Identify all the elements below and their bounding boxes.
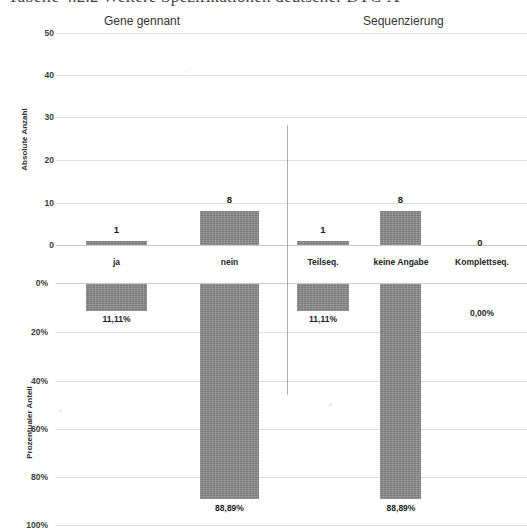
bar-top-teilseq bbox=[297, 241, 349, 245]
percent-label-nein: 88,89% bbox=[200, 503, 259, 513]
axis-title-prozentualer-anteil: Prozentualer Anteil bbox=[25, 368, 34, 478]
tick-bottom-20: 20% bbox=[14, 327, 48, 337]
tick-top-0: 0 bbox=[20, 240, 54, 250]
gridline-bottom-100 bbox=[56, 525, 527, 526]
panel-header-sequenzierung: Sequenzierung bbox=[363, 14, 444, 28]
bar-bottom-nein bbox=[200, 284, 259, 499]
bar-top-keine-angabe bbox=[380, 211, 421, 245]
bar-top-nein bbox=[200, 211, 259, 245]
bar-bottom-ja bbox=[86, 284, 147, 311]
tick-bottom-100: 100% bbox=[10, 520, 48, 530]
gridline-top-30 bbox=[56, 117, 527, 118]
bar-bottom-teilseq bbox=[297, 284, 349, 311]
tick-top-10: 10 bbox=[20, 198, 54, 208]
bar-bottom-keine-angabe bbox=[380, 284, 421, 499]
tick-top-40: 40 bbox=[20, 70, 54, 80]
percent-label-ja: 11,11% bbox=[86, 314, 147, 324]
value-label-top-ja: 1 bbox=[86, 224, 147, 235]
value-label-top-nein: 8 bbox=[200, 194, 259, 205]
tick-bottom-0: 0% bbox=[14, 278, 48, 288]
bar-top-ja bbox=[86, 241, 147, 245]
category-label-teilseq: Teilseq. bbox=[291, 257, 355, 267]
category-label-komplettseq: Komplettseq. bbox=[443, 257, 521, 267]
gridline-top-10 bbox=[56, 203, 527, 204]
axis-title-absolute-anzahl: Absolute Anzahl bbox=[20, 95, 29, 185]
value-label-top-teilseq: 1 bbox=[297, 224, 349, 235]
category-label-nein: nein bbox=[200, 257, 259, 267]
gridline-bottom-80 bbox=[56, 477, 527, 478]
category-label-keine-angabe: keine Angabe bbox=[364, 257, 438, 267]
panel-header-gene-gennant: Gene gennant bbox=[104, 14, 180, 28]
scan-speck bbox=[329, 403, 332, 406]
tick-top-50: 50 bbox=[20, 28, 54, 38]
percent-label-komplettseq: 0,00% bbox=[443, 308, 521, 318]
value-label-top-komplettseq: 0 bbox=[450, 237, 510, 248]
panel-divider bbox=[287, 125, 288, 395]
gridline-bottom-60 bbox=[56, 429, 527, 430]
gridline-top-40 bbox=[56, 75, 527, 76]
gridline-top-20 bbox=[56, 160, 527, 161]
gridline-bottom-20 bbox=[56, 332, 527, 333]
page-caption: Tabelle 4.2.2 Weitere Spezifikationen de… bbox=[0, 0, 527, 13]
gridline-bottom-40 bbox=[56, 381, 527, 382]
page-caption-text: Tabelle 4.2.2 Weitere Spezifikationen de… bbox=[8, 0, 400, 7]
scan-speck bbox=[59, 409, 62, 412]
gridline-top-50 bbox=[56, 33, 527, 34]
value-label-top-keine-angabe: 8 bbox=[380, 194, 421, 205]
percent-label-teilseq: 11,11% bbox=[291, 314, 355, 324]
percent-label-keine-angabe: 88,89% bbox=[375, 503, 427, 513]
scan-speck bbox=[186, 71, 188, 73]
category-label-ja: ja bbox=[86, 257, 147, 267]
